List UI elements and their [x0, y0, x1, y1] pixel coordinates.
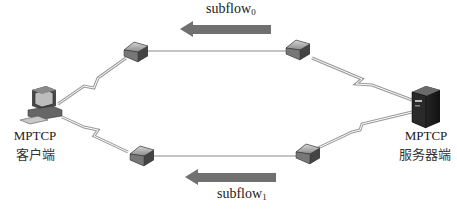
network-diagram	[0, 0, 457, 212]
subflow1-label: subflow1	[217, 186, 267, 202]
subflow0-label: subflow0	[206, 1, 256, 17]
client-label-en: MPTCP	[10, 128, 60, 144]
router-icon	[124, 42, 148, 62]
server-label-cn: 服务器端	[393, 144, 457, 163]
server-label-en: MPTCP	[396, 128, 456, 144]
subflow1-arrow-icon	[185, 169, 276, 185]
router-icon	[296, 144, 320, 164]
client-label-cn: 客户端	[10, 144, 60, 163]
desktop-computer-icon	[20, 86, 62, 124]
router-icon	[130, 146, 154, 166]
router-icon	[286, 40, 310, 60]
subflow0-arrow-icon	[180, 21, 271, 37]
tower-server-icon	[412, 86, 440, 128]
